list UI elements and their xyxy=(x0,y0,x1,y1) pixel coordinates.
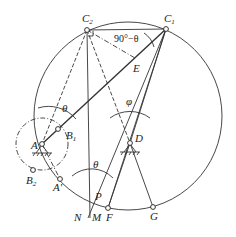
label-d: D xyxy=(134,132,143,144)
label-b1: B1 xyxy=(66,129,76,143)
label-e: E xyxy=(132,62,140,74)
joint-c2 xyxy=(85,28,90,33)
label-b2: B2 xyxy=(26,174,37,188)
joint-a xyxy=(40,142,45,147)
joint-b2 xyxy=(31,168,36,173)
label-phi: φ xyxy=(126,95,132,107)
label-n: N xyxy=(73,211,82,223)
big-circle xyxy=(34,22,222,210)
joint-b1 xyxy=(56,127,61,132)
label-m: M xyxy=(91,211,102,223)
label-f: F xyxy=(105,211,113,223)
label-theta-bottom: θ xyxy=(93,158,99,170)
label-c2: C2 xyxy=(82,12,93,26)
line-c2-c1 xyxy=(87,29,166,30)
theta-arc-bottom xyxy=(72,169,113,178)
label-aprime: A' xyxy=(52,181,63,193)
line-c2-d xyxy=(87,30,130,143)
line-d-g xyxy=(130,143,153,207)
label-a: A xyxy=(30,139,38,151)
mechanism-diagram: C2 C1 90°−θ E θ φ B1 A D θ B2 A' P N M F… xyxy=(0,0,236,237)
joint-g xyxy=(151,205,156,210)
joint-f xyxy=(106,206,111,211)
label-g: G xyxy=(150,210,158,222)
label-theta-top: θ xyxy=(62,102,68,114)
label-c1: C1 xyxy=(164,12,175,26)
joint-d xyxy=(128,141,133,146)
label-complement-angle: 90°−θ xyxy=(114,33,139,44)
joint-c1 xyxy=(164,27,169,32)
label-p: P xyxy=(94,190,102,202)
line-c2-m xyxy=(87,30,90,218)
